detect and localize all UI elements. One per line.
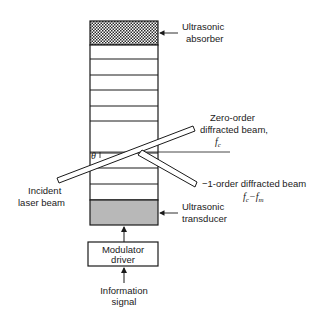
zero-order-label-2: diffracted beam, [200, 124, 268, 135]
minus-one-freq: fc−fm [243, 191, 263, 204]
absorber-label-2: absorber [186, 33, 224, 44]
crystal-body [90, 45, 158, 200]
modulator-label-2: driver [111, 254, 135, 265]
incident-label-1: Incident [28, 185, 62, 196]
zero-order-label-1: Zero-order [210, 112, 255, 123]
incident-label-2: laser beam [18, 197, 65, 208]
acousto-optic-diagram: θ Ultrasonic absorber Zero-order diffrac… [0, 0, 329, 316]
transducer-label-1: Ultrasonic [182, 201, 224, 212]
theta-label: θ [91, 150, 96, 161]
minus-one-order-label: −1-order diffracted beam [202, 178, 306, 189]
absorber-label-1: Ultrasonic [182, 21, 224, 32]
info-label-1: Information [100, 285, 148, 296]
ultrasonic-absorber [90, 21, 158, 45]
info-label-2: signal [112, 296, 137, 307]
transducer-label-2: transducer [182, 213, 227, 224]
zero-order-freq: fc [215, 136, 222, 149]
ultrasonic-transducer [90, 200, 158, 225]
